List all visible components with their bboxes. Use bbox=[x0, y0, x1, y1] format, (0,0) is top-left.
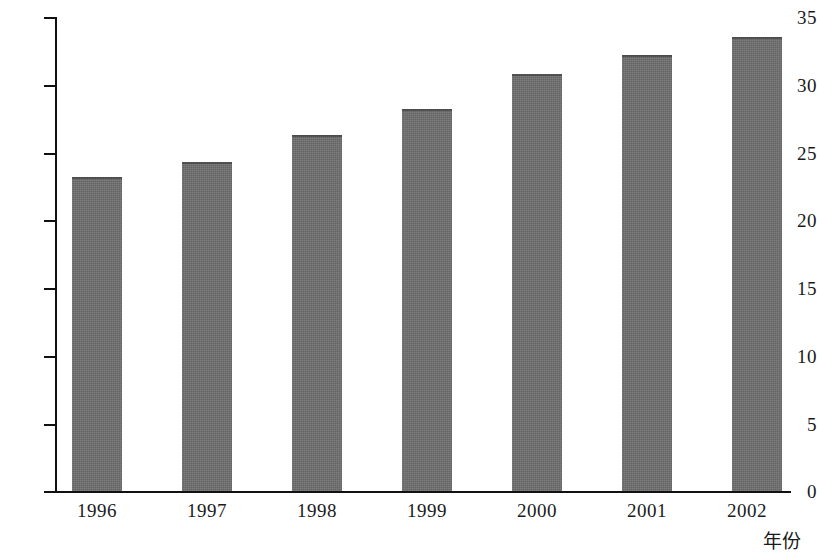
y-axis-tick-label: 25 bbox=[779, 144, 817, 163]
y-axis-tick bbox=[44, 288, 56, 290]
y-axis-tick bbox=[44, 85, 56, 87]
x-axis-title: 年份 bbox=[763, 530, 801, 552]
y-axis-tick-label: 30 bbox=[779, 76, 817, 95]
y-axis-tick bbox=[44, 424, 56, 426]
bar bbox=[622, 55, 672, 491]
x-axis-line bbox=[55, 491, 791, 493]
bar bbox=[72, 177, 122, 491]
x-axis-tick-label: 1996 bbox=[52, 500, 142, 522]
x-axis-tick-label: 2000 bbox=[492, 500, 582, 522]
y-axis-tick-label: 15 bbox=[779, 279, 817, 298]
y-axis-tick-label: 35 bbox=[779, 8, 817, 27]
bar bbox=[292, 135, 342, 491]
bar bbox=[732, 37, 782, 491]
bar bbox=[182, 162, 232, 491]
x-axis-tick-label: 1997 bbox=[162, 500, 252, 522]
x-axis-tick-label: 2001 bbox=[602, 500, 692, 522]
y-axis-tick bbox=[44, 17, 56, 19]
x-axis-tick-label: 2002 bbox=[702, 500, 792, 522]
y-axis-tick-label: 10 bbox=[779, 347, 817, 366]
y-axis-tick bbox=[44, 153, 56, 155]
plot-area: 35 30 25 20 15 10 5 0 1996 1997 1998 199… bbox=[0, 0, 817, 559]
bar-chart: 35 30 25 20 15 10 5 0 1996 1997 1998 199… bbox=[0, 0, 817, 559]
bar bbox=[512, 74, 562, 491]
y-axis-tick bbox=[44, 220, 56, 222]
y-axis-line bbox=[55, 17, 57, 493]
y-axis-tick bbox=[44, 356, 56, 358]
x-axis-tick-label: 1999 bbox=[382, 500, 472, 522]
y-axis-tick-label: 20 bbox=[779, 211, 817, 230]
y-axis-tick-label: 5 bbox=[779, 415, 817, 434]
y-axis-tick-label: 0 bbox=[779, 482, 817, 501]
x-axis-tick-label: 1998 bbox=[272, 500, 362, 522]
y-axis-tick bbox=[44, 491, 56, 493]
bar bbox=[402, 109, 452, 491]
